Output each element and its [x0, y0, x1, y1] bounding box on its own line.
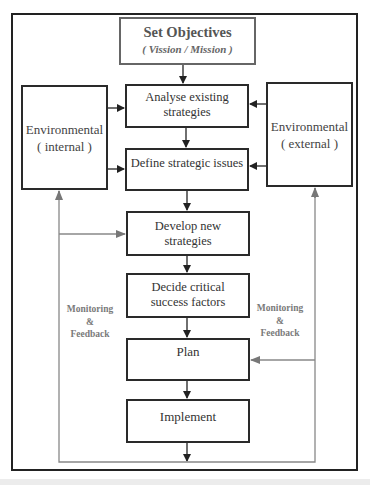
step-label: strategies — [127, 105, 247, 120]
environmental-external-box: Environmental ( external ) — [266, 82, 353, 187]
plan-box: Plan — [126, 338, 250, 381]
set-objectives-subtitle: ( Vission / Mission ) — [121, 42, 254, 57]
environmental-internal-box: Environmental ( internal ) — [21, 85, 108, 190]
step-label: Decide critical — [128, 280, 248, 295]
step-label: Implement — [128, 409, 248, 424]
monitoring-feedback-left-label: Monitoring & Feedback — [55, 303, 125, 341]
step-label: success factors — [128, 295, 248, 310]
env-external-line2: ( external ) — [268, 135, 351, 152]
feedback-text: Monitoring — [245, 302, 315, 315]
set-objectives-box: Set Objectives ( Vission / Mission ) — [119, 17, 256, 65]
feedback-text: Feedback — [245, 327, 315, 340]
feedback-text: & — [245, 315, 315, 328]
step-label: Develop new — [128, 219, 248, 234]
implement-box: Implement — [126, 399, 250, 443]
step-label: Define strategic issues — [127, 156, 247, 171]
decide-critical-success-factors-box: Decide critical success factors — [126, 273, 250, 318]
monitoring-feedback-right-label: Monitoring & Feedback — [245, 302, 315, 340]
env-external-line1: Environmental — [268, 118, 351, 135]
step-label: Plan — [128, 344, 248, 359]
feedback-text: Monitoring — [55, 303, 125, 316]
step-label: strategies — [128, 234, 248, 249]
feedback-text: Feedback — [55, 328, 125, 341]
set-objectives-title: Set Objectives — [121, 25, 254, 40]
env-internal-line1: Environmental — [23, 121, 106, 138]
step-label: Analyse existing — [127, 90, 247, 105]
env-internal-line2: ( internal ) — [23, 138, 106, 155]
feedback-text: & — [55, 316, 125, 329]
analyse-existing-strategies-box: Analyse existing strategies — [125, 84, 249, 128]
define-strategic-issues-box: Define strategic issues — [125, 148, 249, 191]
develop-new-strategies-box: Develop new strategies — [126, 211, 250, 256]
